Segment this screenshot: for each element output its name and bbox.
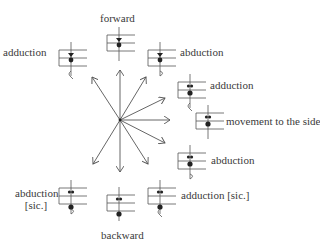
label-forward: forward [100, 12, 135, 24]
label-abduction-upper-right: abduction [180, 46, 223, 58]
label-abduction-sic-lower-left: abduction [sic.] [15, 187, 57, 211]
label-adduction-upper-left: adduction [3, 46, 46, 58]
arrow-up-left [92, 77, 120, 120]
label-abduction-line1: abduction [15, 187, 57, 199]
label-adduction-sic: adduction [sic.] [181, 189, 249, 201]
staff-symbol-right-top [148, 42, 176, 76]
center-dot [119, 119, 122, 122]
label-backward: backward [101, 229, 144, 241]
label-abduction-right-lower: abduction [211, 154, 254, 166]
direction-arrows [92, 70, 170, 172]
arrow-down-right [120, 120, 148, 164]
staff-symbol-right-upper [178, 74, 206, 111]
arrow-right-down [120, 120, 165, 143]
staff-symbol-bottom-right [148, 180, 176, 217]
staff-symbol-right [196, 105, 224, 139]
arrow-down-left [93, 120, 120, 164]
staff-symbol-right-lower [178, 145, 206, 179]
staff-symbol-bottom [107, 187, 135, 221]
staff-symbol-top [107, 27, 135, 61]
label-sic-line2: [sic.] [15, 199, 57, 211]
label-adduction-right: adduction [210, 79, 253, 91]
staff-symbol-bottom-left [59, 180, 87, 214]
staff-symbol-left-top [59, 42, 87, 79]
label-movement-to-the-side: movement to the side [226, 115, 320, 127]
